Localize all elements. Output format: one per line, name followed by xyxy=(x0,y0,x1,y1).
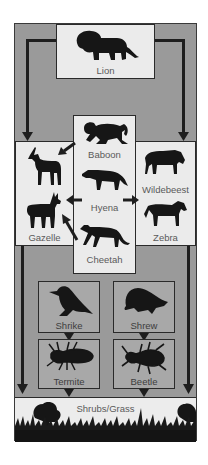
zebra-icon xyxy=(144,200,188,228)
beetle-box: Beetle xyxy=(113,339,175,389)
cheetah-label: Cheetah xyxy=(74,254,135,265)
wildebeest-icon xyxy=(143,148,187,176)
wildebeest-zebra-box: Wildebeest Zebra xyxy=(135,141,196,246)
arrowhead-down-icon xyxy=(17,384,28,394)
lion-left-arrow-v xyxy=(26,39,29,134)
baboon-icon xyxy=(82,120,130,146)
arrowhead-down-icon xyxy=(178,132,189,141)
baboon-to-gazelle-arrow-icon xyxy=(58,142,76,156)
lion-label: Lion xyxy=(57,65,154,76)
hyena-icon xyxy=(82,168,128,192)
shrike-label: Shrike xyxy=(39,320,99,331)
lion-right-arrow-h xyxy=(153,39,185,42)
beetle-label: Beetle xyxy=(114,376,174,387)
lion-left-arrow-h xyxy=(26,39,57,42)
termite-to-grass-arrow-icon xyxy=(64,389,74,397)
zebra-to-grass-line xyxy=(187,246,190,386)
shrew-box: Shrew xyxy=(113,281,175,333)
hyena-to-gazelle-arrow-icon xyxy=(66,195,82,205)
shrubs-grass-strip: Shrubs/Grass xyxy=(15,397,196,442)
lion-right-arrow-v xyxy=(182,39,185,134)
zebra-label: Zebra xyxy=(136,232,195,243)
grass-icon xyxy=(15,398,196,442)
beetle-icon xyxy=(120,342,170,374)
shrew-icon xyxy=(122,286,168,316)
gazelle-to-grass-line xyxy=(21,246,24,386)
termite-label: Termite xyxy=(39,376,99,387)
cheetah-icon xyxy=(80,223,130,249)
beetle-to-grass-arrow-icon xyxy=(139,389,149,397)
gazelle-icon xyxy=(24,192,64,230)
arrowhead-down-icon xyxy=(183,384,194,394)
shrike-box: Shrike xyxy=(38,281,100,333)
termite-box: Termite xyxy=(38,339,100,389)
shrew-label: Shrew xyxy=(114,320,174,331)
termite-icon xyxy=(45,342,95,372)
hyena-to-wildebeest-arrow-icon xyxy=(123,195,139,205)
lion-icon xyxy=(71,29,141,63)
wildebeest-label: Wildebeest xyxy=(136,184,195,195)
baboon-label: Baboon xyxy=(74,149,135,160)
bird-icon xyxy=(49,284,95,320)
arrowhead-down-icon xyxy=(22,132,33,141)
lion-box: Lion xyxy=(56,24,155,79)
cheetah-to-gazelle-arrow-icon xyxy=(61,214,79,242)
